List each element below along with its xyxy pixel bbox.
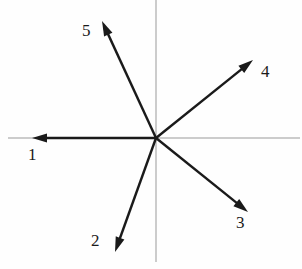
vector-3: [156, 138, 248, 212]
vector-diagram-figure: 12345: [0, 0, 302, 269]
vector-arrowhead-1: [32, 133, 47, 142]
vector-1: [32, 133, 156, 142]
vector-label-3: 3: [236, 214, 245, 231]
vector-shaft-3: [156, 138, 239, 205]
vector-shaft-5: [107, 32, 156, 138]
vector-4: [156, 60, 253, 138]
vector-shaft-4: [156, 67, 244, 138]
vector-shaft-2: [119, 138, 156, 241]
vector-diagram-canvas: [0, 0, 302, 269]
vector-5: [102, 21, 156, 138]
vectors-group: [32, 21, 253, 252]
vector-label-4: 4: [261, 63, 270, 80]
vector-label-5: 5: [82, 22, 91, 39]
vector-label-1: 1: [28, 146, 37, 163]
vector-arrowhead-2: [115, 236, 124, 252]
vector-2: [115, 138, 156, 252]
vector-label-2: 2: [91, 232, 100, 249]
vector-arrowhead-5: [102, 21, 112, 37]
